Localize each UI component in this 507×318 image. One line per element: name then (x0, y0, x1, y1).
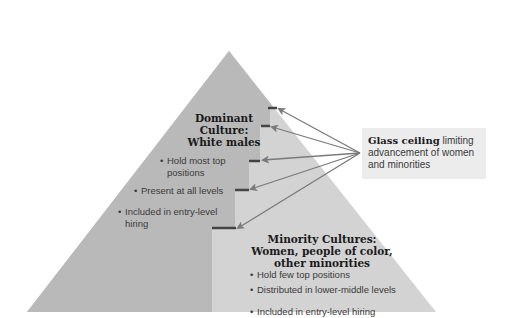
minority-heading-line: Women, people of color, (222, 245, 422, 257)
dominant-bullet-item: Hold most top positions (160, 155, 262, 178)
glass-ceiling-callout: Glass ceiling limiting advancement of wo… (362, 128, 486, 179)
minority-bullet-item: Hold few top positions (250, 269, 427, 281)
minority-bullet-item: Distributed in lower-middle levels (250, 284, 427, 296)
minority-heading-line: Minority Cultures: (222, 233, 422, 245)
dominant-heading-line: White males (168, 136, 280, 148)
callout-title: Glass ceiling (368, 135, 440, 146)
minority-cultures-heading: Minority Cultures: Women, people of colo… (222, 233, 422, 269)
dominant-culture-heading: Dominant Culture: White males (168, 112, 280, 148)
minority-heading-line: other minorities (222, 257, 422, 269)
dominant-heading-line: Culture: (168, 124, 280, 136)
minority-bullet-item: Included in entry-level hiring (250, 306, 437, 318)
dominant-heading-line: Dominant (168, 112, 280, 124)
dominant-bullet-item: Included in entry-level hiring (118, 206, 243, 229)
dominant-bullet-item: Present at all levels (134, 185, 261, 197)
